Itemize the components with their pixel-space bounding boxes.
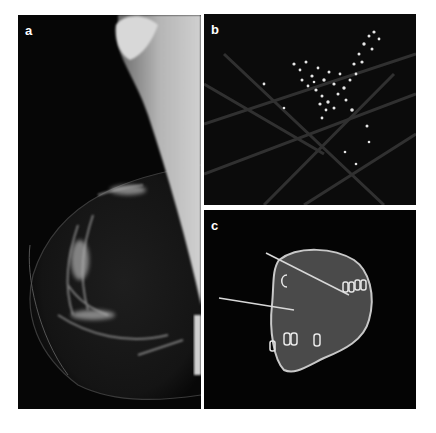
panel-b-microcalcifications: b	[204, 14, 416, 205]
panel-label-c: c	[211, 219, 218, 232]
mammogram-image	[18, 15, 201, 409]
panel-c-specimen-radiograph: c	[204, 210, 416, 409]
figure: a	[0, 0, 436, 433]
panel-label-a: a	[25, 24, 32, 37]
specimen-image	[204, 210, 416, 409]
panel-a-mammogram: a	[18, 15, 201, 409]
microcalcification-image	[204, 14, 416, 205]
panel-label-b: b	[211, 23, 219, 36]
